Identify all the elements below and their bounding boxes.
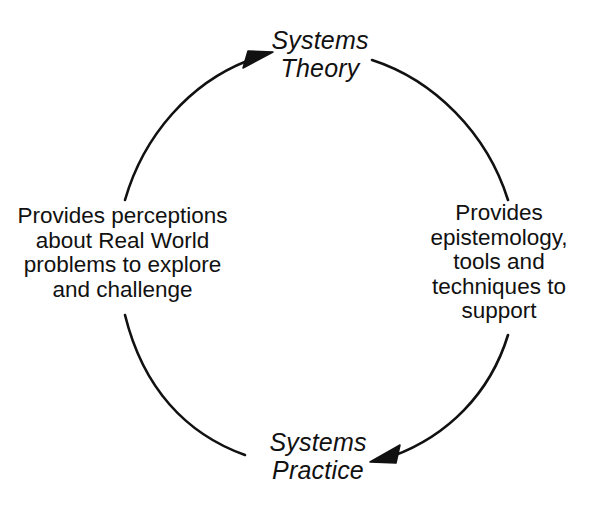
arc-right-lower bbox=[393, 335, 508, 456]
node-systems-theory: Systems Theory bbox=[230, 26, 410, 82]
diagram-canvas: Systems Theory Systems Practice Provides… bbox=[0, 0, 599, 510]
arc-left-lower bbox=[125, 315, 245, 455]
arc-left-upper bbox=[125, 61, 247, 200]
edge-label-theory-to-practice: Provides epistemology, tools and techniq… bbox=[408, 201, 590, 324]
edge-label-practice-to-theory: Provides perceptions about Real World pr… bbox=[10, 204, 235, 302]
node-systems-practice: Systems Practice bbox=[228, 428, 408, 484]
